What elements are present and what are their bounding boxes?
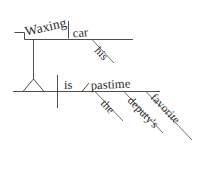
word-waxing: Waxing [23, 15, 68, 39]
word-car: car [72, 25, 89, 40]
sentence-diagram-svg: Waxing car his is pastime the deputy's f… [0, 0, 198, 177]
predicate-nominative-divider [82, 83, 89, 92]
pedestal-triangle-left-leg [23, 79, 34, 92]
sentence-diagram-canvas: Waxing car his is pastime the deputy's f… [0, 0, 198, 177]
word-is: is [64, 78, 73, 92]
word-his: his [93, 44, 111, 63]
word-the: the [99, 97, 118, 116]
word-pastime: pastime [90, 76, 131, 92]
pedestal-triangle-right-leg [34, 79, 45, 92]
